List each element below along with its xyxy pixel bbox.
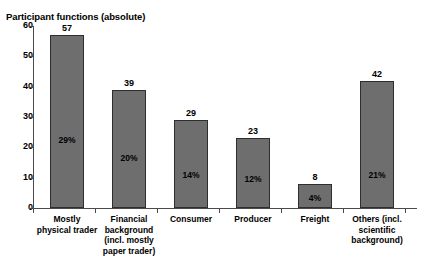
x-axis-tick-mark bbox=[33, 209, 34, 213]
bar-percent-label: 4% bbox=[284, 193, 346, 203]
bar[interactable] bbox=[50, 35, 84, 208]
bar-percent-label: 21% bbox=[346, 170, 408, 180]
bar-group[interactable]: 5729% bbox=[36, 30, 98, 208]
bar-value-label: 23 bbox=[222, 126, 284, 136]
bar[interactable] bbox=[360, 81, 394, 208]
cut-off-header-text bbox=[0, 0, 427, 10]
x-axis-category-label: Others (incl. scientific background) bbox=[342, 214, 412, 246]
bar-percent-label: 12% bbox=[222, 174, 284, 184]
x-axis-category-label: Financial background (incl. mostly paper… bbox=[94, 214, 164, 256]
x-axis-tick-mark bbox=[95, 209, 96, 213]
x-axis-category-label: Freight bbox=[280, 214, 350, 225]
bar-percent-label: 20% bbox=[98, 153, 160, 163]
x-axis-tick-mark bbox=[219, 209, 220, 213]
x-axis-line bbox=[33, 208, 417, 209]
bar-value-label: 29 bbox=[160, 108, 222, 118]
bar-group[interactable]: 2914% bbox=[160, 30, 222, 208]
bar-chart-plot-area: 0102030405060 5729%3920%2914%2312%84%422… bbox=[0, 24, 427, 214]
bar[interactable] bbox=[112, 90, 146, 208]
x-axis-category-labels: Mostly physical traderFinancial backgrou… bbox=[0, 214, 427, 267]
bar-value-label: 42 bbox=[346, 69, 408, 79]
bar-group[interactable]: 2312% bbox=[222, 30, 284, 208]
bar-group[interactable]: 4221% bbox=[346, 30, 408, 208]
x-axis-category-label: Mostly physical trader bbox=[32, 214, 102, 235]
bar-group[interactable]: 84% bbox=[284, 30, 346, 208]
x-axis-category-label: Producer bbox=[218, 214, 288, 225]
x-axis-tick-mark bbox=[157, 209, 158, 213]
y-axis-tick-mark bbox=[29, 178, 33, 179]
x-axis-tick-mark bbox=[405, 209, 406, 213]
bar-value-label: 8 bbox=[284, 172, 346, 182]
bar-value-label: 57 bbox=[36, 23, 98, 33]
bar-value-label: 39 bbox=[98, 78, 160, 88]
y-axis-tick-mark bbox=[29, 117, 33, 118]
bar-percent-label: 14% bbox=[160, 170, 222, 180]
x-axis-tick-mark bbox=[343, 209, 344, 213]
y-axis-tick-mark bbox=[29, 147, 33, 148]
x-axis-tick-mark bbox=[281, 209, 282, 213]
y-axis-tick-mark bbox=[29, 26, 33, 27]
bar-group[interactable]: 3920% bbox=[98, 30, 160, 208]
bar-percent-label: 29% bbox=[36, 135, 98, 145]
x-axis-category-label: Consumer bbox=[156, 214, 226, 225]
bar[interactable] bbox=[174, 120, 208, 208]
y-axis-line bbox=[33, 26, 34, 210]
y-axis-tick-mark bbox=[29, 87, 33, 88]
y-axis-tick-mark bbox=[29, 56, 33, 57]
